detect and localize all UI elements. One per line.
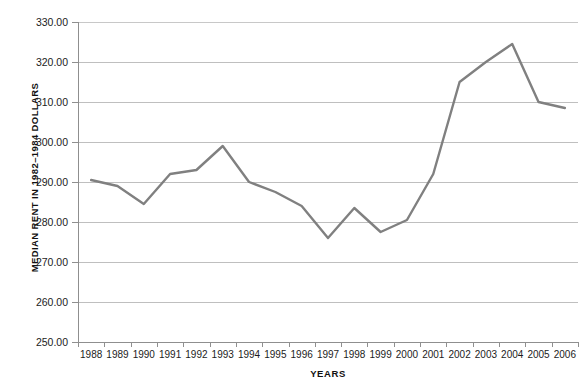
series-line-median-rent: [0, 0, 586, 389]
line-chart: MEDIAN RENT IN 1982–1984 DOLLARS YEARS 3…: [0, 0, 586, 389]
